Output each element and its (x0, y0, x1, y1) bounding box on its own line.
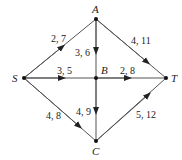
node-A-dot (94, 17, 98, 21)
edge-label-S-B: 3, 5 (57, 65, 72, 76)
flow-network-diagram: 2, 7 3, 6 4, 11 3, 5 2, 8 4, 8 4, 9 5, 1… (0, 0, 182, 160)
edge-label-B-C: 4, 9 (76, 106, 91, 117)
edge-label-C-T: 5, 12 (136, 109, 156, 120)
edge-label-A-T: 4, 11 (131, 35, 151, 46)
edge-label-A-B: 3, 6 (75, 47, 90, 58)
edge-label-S-A: 2, 7 (51, 33, 66, 44)
edge-label-S-C: 4, 8 (46, 110, 61, 121)
node-label-A: A (91, 3, 99, 15)
node-label-B: B (101, 64, 108, 76)
node-T-dot (164, 76, 168, 80)
edge-label-B-T: 2, 8 (120, 65, 135, 76)
node-label-C: C (92, 145, 100, 157)
node-label-T: T (171, 72, 178, 84)
node-label-S: S (12, 72, 18, 84)
node-C-dot (94, 139, 98, 143)
node-B-dot (94, 76, 98, 80)
node-S-dot (22, 76, 26, 80)
